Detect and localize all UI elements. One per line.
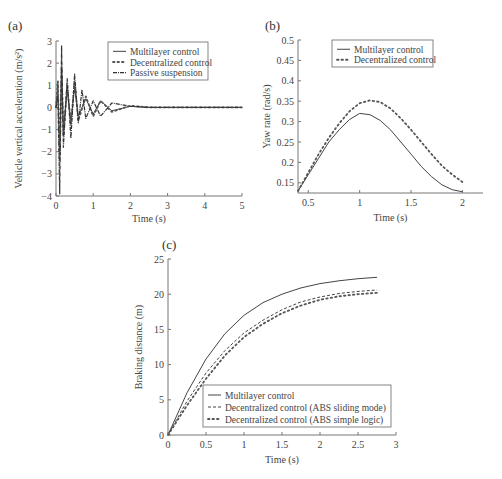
y-tick-label: 0.3 — [282, 116, 295, 127]
x-tick-label: 0.5 — [302, 197, 315, 208]
y-tick-label: 20 — [154, 289, 164, 300]
x-tick-label: 0 — [54, 200, 59, 211]
legend-entry: Decentralized control (ABS sliding mode) — [225, 403, 386, 414]
y-tick-label: 0.25 — [277, 137, 295, 148]
series-line — [56, 72, 242, 152]
y-tick-label: −2 — [41, 146, 52, 157]
legend-entry: Multilayer control — [354, 45, 424, 55]
chart-panel-1: 012345−4−3−2−10123Time (s)Vehicle vertic… — [13, 36, 245, 226]
y-tick-label: 25 — [154, 254, 164, 265]
y-tick-label: 0.35 — [277, 96, 295, 107]
legend: Multilayer controlDecentralized control — [332, 40, 436, 67]
y-tick-label: 0.2 — [282, 157, 295, 168]
x-tick-label: 1.5 — [405, 197, 418, 208]
y-tick-label: −4 — [41, 191, 52, 202]
x-tick-label: 3 — [394, 439, 399, 450]
y-tick-label: 2 — [47, 58, 52, 69]
figure-canvas: 012345−4−3−2−10123Time (s)Vehicle vertic… — [0, 0, 502, 479]
legend-entry: Decentralized control (ABS simple logic) — [225, 415, 383, 426]
x-tick-label: 2 — [460, 197, 465, 208]
legend: Multilayer controlDecentralized control … — [203, 385, 391, 427]
y-tick-label: 0.4 — [282, 75, 295, 86]
x-tick-label: 2.5 — [352, 439, 365, 450]
legend-entry: Multilayer control — [225, 391, 295, 401]
y-tick-label: −1 — [41, 124, 52, 135]
y-tick-label: −3 — [41, 168, 52, 179]
y-tick-label: 1 — [47, 80, 52, 91]
y-tick-label: 15 — [154, 324, 164, 335]
chart-panel-2: 0.511.520.150.20.250.30.350.40.450.5Time… — [261, 35, 483, 225]
x-tick-label: 3 — [165, 200, 170, 211]
legend: Multilayer controlDecentralized controlP… — [108, 42, 212, 80]
x-axis-label: Time (s) — [132, 213, 166, 225]
series-line — [298, 100, 462, 191]
x-axis-label: Time (s) — [265, 454, 299, 466]
y-axis-label: Vehicle vertical acceleration (m/s²) — [13, 49, 25, 189]
y-tick-label: 5 — [159, 394, 164, 405]
x-tick-label: 0 — [166, 439, 171, 450]
series-line — [298, 113, 462, 191]
y-tick-label: 0.5 — [282, 35, 295, 46]
legend-entry: Passive suspension — [130, 68, 203, 78]
x-tick-label: 4 — [202, 200, 207, 211]
legend-entry: Multilayer control — [130, 47, 200, 57]
y-tick-label: 0 — [47, 102, 52, 113]
y-axis-label: Braking distance (m) — [133, 305, 145, 389]
series-line — [56, 68, 242, 161]
x-tick-label: 5 — [240, 200, 245, 211]
y-tick-label: 0 — [159, 430, 164, 441]
y-axis-label: Yaw rate (rad/s) — [261, 85, 273, 149]
legend-entry: Decentralized control — [354, 55, 436, 65]
chart-panel-3: 00.511.522.530510152025Time (s)Braking d… — [133, 254, 399, 467]
y-tick-label: 3 — [47, 36, 52, 47]
x-tick-label: 1 — [91, 200, 96, 211]
x-tick-label: 1 — [242, 439, 247, 450]
x-tick-label: 1 — [357, 197, 362, 208]
y-tick-label: 0.15 — [277, 177, 295, 188]
y-tick-label: 10 — [154, 359, 164, 370]
x-axis-label: Time (s) — [374, 212, 408, 224]
y-tick-label: 0.45 — [277, 55, 295, 66]
x-tick-label: 1.5 — [276, 439, 289, 450]
x-tick-label: 0.5 — [200, 439, 213, 450]
legend-entry: Decentralized control — [130, 58, 212, 68]
x-tick-label: 2 — [318, 439, 323, 450]
x-tick-label: 2 — [128, 200, 133, 211]
